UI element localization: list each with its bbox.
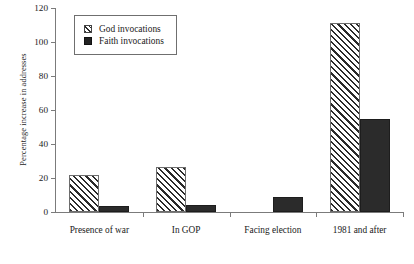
y-axis-tick-label: 0 bbox=[43, 207, 48, 217]
bar-group bbox=[243, 8, 303, 212]
y-axis-tick bbox=[51, 212, 56, 213]
y-axis-tick bbox=[51, 76, 56, 77]
chart-legend: God invocations Faith invocations bbox=[74, 15, 177, 55]
bar-chart: Percentage increase in addresses 0204060… bbox=[0, 0, 414, 264]
y-axis-tick bbox=[51, 178, 56, 179]
y-axis-tick bbox=[51, 110, 56, 111]
y-axis-tick-label: 20 bbox=[39, 173, 48, 183]
legend-item-faith: Faith invocations bbox=[84, 36, 164, 46]
bar-faith bbox=[186, 205, 216, 212]
legend-label-faith: Faith invocations bbox=[99, 36, 164, 46]
y-axis-tick-label: 120 bbox=[34, 3, 48, 13]
x-axis-separator-tick bbox=[403, 212, 404, 217]
bar-group bbox=[330, 8, 390, 212]
legend-swatch-faith-icon bbox=[84, 37, 92, 45]
y-axis-tick bbox=[51, 8, 56, 9]
legend-label-god: God invocations bbox=[99, 24, 161, 34]
y-axis-tick-label: 60 bbox=[39, 105, 48, 115]
bar-faith bbox=[360, 119, 390, 213]
y-axis-tick-label: 40 bbox=[39, 139, 48, 149]
x-axis-separator-tick bbox=[143, 212, 144, 217]
x-axis-separator-tick bbox=[230, 212, 231, 217]
bar-faith bbox=[273, 197, 303, 212]
legend-item-god: God invocations bbox=[84, 24, 164, 34]
y-axis-tick-label: 100 bbox=[34, 37, 48, 47]
y-axis-tick bbox=[51, 42, 56, 43]
legend-swatch-god-icon bbox=[84, 25, 92, 33]
y-axis-title: Percentage increase in addresses bbox=[19, 15, 28, 205]
bar-god bbox=[330, 23, 360, 212]
x-axis-separator-tick bbox=[316, 212, 317, 217]
bar-god bbox=[156, 167, 186, 212]
y-axis-tick bbox=[51, 144, 56, 145]
x-axis-label: In GOP bbox=[172, 225, 201, 235]
y-axis-tick-label: 80 bbox=[39, 71, 48, 81]
x-axis-label: 1981 and after bbox=[333, 225, 387, 235]
x-axis-label: Facing election bbox=[244, 225, 301, 235]
bar-faith bbox=[99, 206, 129, 212]
x-axis-label: Presence of war bbox=[70, 225, 129, 235]
bar-god bbox=[69, 175, 99, 212]
